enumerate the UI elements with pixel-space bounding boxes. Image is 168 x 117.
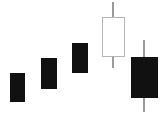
candlestick-3-body [72,43,88,73]
candlestick-4-upper-wick [112,2,114,18]
candlestick-5-body [131,57,158,98]
candlestick-4-body [102,17,125,57]
candlestick-4-lower-wick [112,56,114,68]
candlestick-5-upper-wick [143,40,145,58]
candlestick-chart [0,0,168,117]
candlestick-1-body [10,73,25,102]
candlestick-2-body [41,58,57,89]
candlestick-5-lower-wick [143,97,145,112]
